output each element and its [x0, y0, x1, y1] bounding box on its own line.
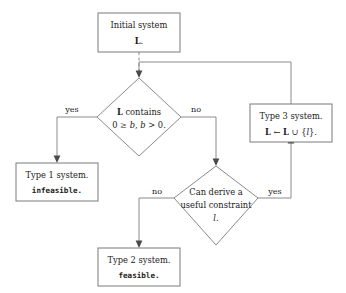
initial-system-line1: Initial system: [111, 20, 168, 30]
flowchart-svg: Initial system L. L contains 0 ≥ b, b > …: [0, 0, 346, 293]
decision-contains-line2: 0 ≥ b, b > 0.: [112, 120, 166, 130]
connector-type3-feedback-loop: [139, 62, 291, 104]
type2-system-line1: Type 2 system.: [108, 255, 171, 265]
flowchart-container: Initial system L. L contains 0 ≥ b, b > …: [0, 0, 346, 293]
arrowhead-into-type1: [54, 156, 61, 164]
node-type2-system[interactable]: Type 2 system. feasible.: [98, 248, 180, 286]
decision-derive-line3: l.: [213, 213, 218, 223]
arrowhead-into-decision-derive: [213, 159, 220, 167]
node-type1-system[interactable]: Type 1 system. infeasible.: [16, 163, 98, 201]
edge-label-contains-no: no: [191, 104, 201, 114]
connector-derive-no: [139, 198, 174, 242]
edge-label-derive-yes: yes: [267, 186, 282, 196]
node-decision-derive[interactable]: Can derive a useful constraint l.: [174, 166, 258, 245]
edge-label-derive-no: no: [152, 186, 162, 196]
node-decision-contains[interactable]: L contains 0 ≥ b, b > 0.: [97, 78, 181, 156]
decision-derive-line2: useful constraint: [180, 200, 252, 210]
initial-system-line2: L.: [135, 36, 143, 46]
decision-contains-line1: L contains: [117, 107, 161, 117]
type1-system-line1: Type 1 system.: [26, 170, 89, 180]
decision-derive-line1: Can derive a: [189, 187, 242, 197]
connector-contains-yes: [57, 117, 97, 157]
type1-system-line2: infeasible.: [32, 186, 82, 195]
arrowhead-into-type2: [136, 241, 143, 249]
edge-label-contains-yes: yes: [64, 104, 79, 114]
node-initial-system[interactable]: Initial system L.: [98, 13, 180, 52]
type3-system-line1: Type 3 system.: [260, 111, 323, 121]
node-type3-system[interactable]: Type 3 system. L ← L ∪ {l}.: [250, 104, 332, 142]
type2-system-line2: feasible.: [118, 271, 159, 280]
type3-system-line2: L ← L ∪ {l}.: [265, 127, 317, 137]
decision-contains-diamond: [97, 78, 181, 156]
arrowhead-into-decision-contains: [136, 71, 143, 79]
connector-contains-no: [181, 117, 216, 160]
